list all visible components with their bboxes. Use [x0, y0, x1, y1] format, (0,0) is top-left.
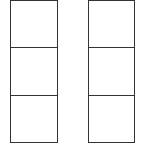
right-column-cell-2 — [88, 47, 135, 94]
right-column-cell-1 — [88, 0, 135, 47]
right-column-cell-3 — [88, 95, 135, 143]
right-column — [88, 0, 135, 143]
left-column-cell-2 — [10, 47, 58, 94]
left-column-cell-3 — [10, 95, 58, 143]
left-column — [10, 0, 58, 143]
left-column-cell-1 — [10, 0, 58, 47]
